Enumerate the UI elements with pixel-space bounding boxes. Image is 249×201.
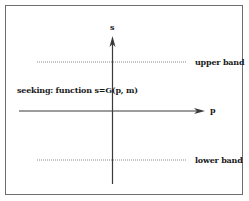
s-axis-label: s [110, 23, 114, 31]
seeking-function-annotation: seeking: function s=G(p, m) [17, 86, 138, 94]
upper-band-label: upper band [195, 58, 244, 66]
p-axis-label: p [210, 106, 215, 114]
diagram-canvas [0, 0, 249, 201]
lower-band-label: lower band [195, 156, 243, 164]
